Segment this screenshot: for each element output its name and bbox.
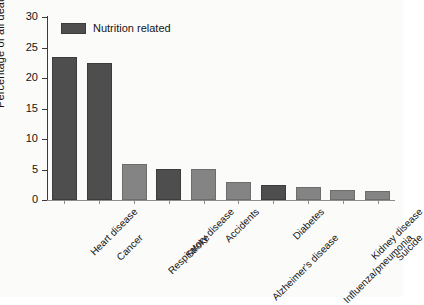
x-tick-mark xyxy=(378,201,379,204)
legend: Nutrition related xyxy=(61,22,171,34)
x-tick-mark xyxy=(273,201,274,204)
y-tick-label: 10 xyxy=(26,132,38,145)
bar xyxy=(330,190,355,200)
bar xyxy=(296,187,321,200)
legend-swatch-nutrition-related xyxy=(61,23,86,34)
legend-label-nutrition-related: Nutrition related xyxy=(93,22,171,34)
y-axis-title: Percentage of all deaths xyxy=(0,0,6,108)
x-tick-mark xyxy=(343,201,344,204)
bar xyxy=(52,57,77,200)
x-tick-label: Cancer xyxy=(115,232,146,263)
x-tick-mark xyxy=(64,201,65,204)
x-tick-mark xyxy=(169,201,170,204)
y-tick-label: 5 xyxy=(32,163,38,176)
bar xyxy=(365,191,390,200)
x-tick-mark xyxy=(99,201,100,204)
x-tick-mark xyxy=(238,201,239,204)
bar xyxy=(226,182,251,200)
bar xyxy=(87,63,112,200)
x-tick-mark xyxy=(134,201,135,204)
bar xyxy=(191,169,216,200)
x-tick-mark xyxy=(204,201,205,204)
y-tick-label: 15 xyxy=(26,102,38,115)
x-tick-mark xyxy=(308,201,309,204)
bar xyxy=(122,164,147,200)
plot-area xyxy=(47,17,395,200)
x-tick-label: Diabetes xyxy=(291,206,327,242)
y-tick-label: 25 xyxy=(26,41,38,54)
y-tick-label: 30 xyxy=(26,10,38,23)
y-tick-label: 0 xyxy=(32,193,38,206)
y-tick-label: 20 xyxy=(26,71,38,84)
x-tick-label: Alzheimer's disease xyxy=(270,232,340,302)
bar xyxy=(156,169,181,200)
bar xyxy=(261,185,286,200)
